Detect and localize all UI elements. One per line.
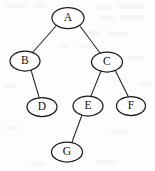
edges-group: [31, 26, 128, 142]
nodes-group: ABCDEFG: [10, 8, 146, 163]
node-label-d: D: [38, 100, 47, 112]
tree-edge-c-f: [115, 70, 128, 96]
tree-node-d[interactable]: D: [27, 98, 57, 117]
node-label-a: A: [64, 11, 73, 23]
tree-diagram: ABCDEFG: [0, 0, 155, 171]
tree-edge-a-c: [80, 26, 100, 53]
tree-graph: ABCDEFG: [0, 0, 155, 171]
tree-edge-e-g: [72, 115, 82, 142]
tree-node-g[interactable]: G: [52, 142, 83, 162]
tree-node-b[interactable]: B: [10, 51, 40, 71]
tree-node-c[interactable]: C: [92, 52, 123, 72]
tree-edge-a-b: [33, 26, 56, 52]
tree-edge-b-d: [31, 70, 39, 97]
node-label-f: F: [128, 99, 135, 111]
node-label-c: C: [103, 55, 111, 67]
node-label-e: E: [84, 99, 91, 111]
node-label-b: B: [21, 54, 29, 66]
tree-node-a[interactable]: A: [52, 8, 84, 29]
node-label-g: G: [63, 145, 72, 157]
tree-node-e[interactable]: E: [73, 96, 103, 116]
tree-edge-c-e: [91, 71, 101, 96]
tree-node-f[interactable]: F: [117, 97, 146, 116]
